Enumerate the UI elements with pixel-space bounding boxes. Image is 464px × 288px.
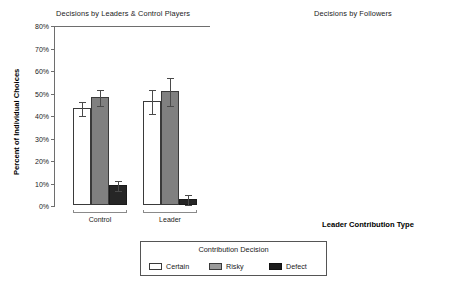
chart-panel-followers: Decisions by Followers Percent of Indivi… <box>232 0 464 232</box>
group-bracket-end <box>73 210 74 213</box>
error-bar-cap-top <box>79 102 86 103</box>
error-bar-cap-top <box>167 78 174 79</box>
y-axis-title-left: Percent of Individual Choices <box>12 69 21 175</box>
y-axis-tick <box>51 26 55 27</box>
x-axis-title-right: Leader Contribution Type <box>289 220 447 229</box>
legend-title: Contribution Decision <box>141 245 326 254</box>
y-axis-tick-label: 10% <box>35 180 49 187</box>
error-bar <box>100 90 101 106</box>
y-axis-tick <box>51 206 55 207</box>
legend-item-defect: Defect <box>269 259 307 273</box>
error-bar-cap-bottom <box>167 106 174 107</box>
y-axis-tick-label: 0% <box>39 203 49 210</box>
bar-group <box>143 26 197 205</box>
panel-title-right: Decisions by Followers <box>232 9 464 18</box>
error-bar <box>82 102 83 116</box>
panel-title-left: Decisions by Leaders & Control Players <box>0 9 232 18</box>
group-bracket <box>73 212 127 213</box>
error-bar <box>188 195 189 205</box>
legend-swatch-defect-icon <box>269 263 282 270</box>
y-axis-tick-label: 40% <box>35 113 49 120</box>
y-axis-tick-label: 30% <box>35 135 49 142</box>
y-axis-tick <box>51 139 55 140</box>
error-bar <box>118 181 119 191</box>
legend: Contribution Decision CertainRiskyDefect <box>140 241 327 276</box>
error-bar <box>152 90 153 115</box>
y-axis-tick <box>51 49 55 50</box>
legend-item-risky: Risky <box>209 259 244 273</box>
bar-group <box>73 26 127 205</box>
legend-item-certain: Certain <box>149 259 189 273</box>
y-axis-tick <box>51 71 55 72</box>
y-axis-tick <box>51 94 55 95</box>
bar-certain-leader <box>143 101 161 205</box>
legend-label: Certain <box>166 262 189 271</box>
group-bracket-end <box>126 210 127 213</box>
chart-panel-leaders-control: Decisions by Leaders & Control Players P… <box>0 0 232 232</box>
error-bar-cap-bottom <box>79 116 86 117</box>
error-bar-cap-top <box>97 90 104 91</box>
group-bracket-end <box>143 210 144 213</box>
legend-items: CertainRiskyDefect <box>141 259 326 273</box>
x-axis-group-label: Control <box>89 216 112 223</box>
error-bar-cap-top <box>115 181 122 182</box>
group-bracket <box>143 212 197 213</box>
y-axis-tick-label: 80% <box>35 23 49 30</box>
bar-risky-control <box>91 97 109 205</box>
y-axis-tick <box>51 116 55 117</box>
y-axis-tick <box>51 184 55 185</box>
legend-swatch-risky-icon <box>209 263 222 270</box>
error-bar-cap-top <box>149 90 156 91</box>
plot-area-left: 0%10%20%30%40%50%60%70%80%ControlLeader <box>55 26 210 205</box>
bar-risky-leader <box>161 91 179 205</box>
bar-certain-control <box>73 108 91 205</box>
y-axis-tick-label: 20% <box>35 158 49 165</box>
x-axis-group-label: Leader <box>159 216 181 223</box>
legend-label: Risky <box>226 262 244 271</box>
y-axis-tick-label: 50% <box>35 90 49 97</box>
error-bar-cap-bottom <box>97 106 104 107</box>
legend-label: Defect <box>286 262 307 271</box>
error-bar-cap-top <box>185 195 192 196</box>
y-axis-tick-label: 70% <box>35 45 49 52</box>
y-axis-tick-label: 60% <box>35 68 49 75</box>
y-axis-tick <box>51 161 55 162</box>
group-bracket-end <box>196 210 197 213</box>
error-bar <box>170 78 171 106</box>
figure-root: Decisions by Leaders & Control Players P… <box>0 0 464 288</box>
error-bar-cap-bottom <box>185 205 192 206</box>
error-bar-cap-bottom <box>149 114 156 115</box>
error-bar-cap-bottom <box>115 191 122 192</box>
legend-swatch-certain-icon <box>149 263 162 270</box>
